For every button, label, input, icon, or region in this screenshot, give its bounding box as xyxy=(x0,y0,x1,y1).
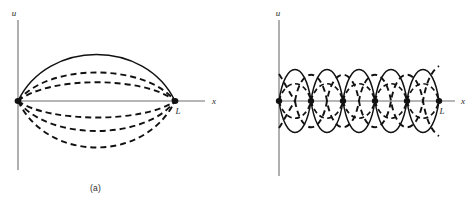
panel-a: u x L (a) xyxy=(0,0,237,206)
panel-a-x-axis-label: x xyxy=(211,96,216,106)
panel-b-node-3 xyxy=(372,98,378,104)
panel-b-node-2 xyxy=(340,98,346,104)
panel-b: u x L (b) xyxy=(237,0,474,206)
panel-a-curve-dashed-n1-neg036 xyxy=(18,101,175,118)
panel-b-x-axis-label: x xyxy=(460,96,465,106)
panel-b-endpoint-label: L xyxy=(438,106,444,116)
panel-a-node-endpoint xyxy=(172,98,179,104)
panel-a-curve-dashed-n1-neg064 xyxy=(18,101,175,131)
panel-a-endpoint-label: L xyxy=(174,106,180,116)
panel-a-curve-dashed-n1-pos040 xyxy=(18,82,175,101)
panel-b-plot: u x L xyxy=(237,0,474,206)
panel-a-y-axis-label: u xyxy=(12,8,17,18)
panel-b-node-1 xyxy=(308,98,314,104)
panel-b-y-axis-label: u xyxy=(276,8,281,18)
panel-a-curve-dashed-n1-pos061 xyxy=(18,73,175,102)
panel-b-node-0 xyxy=(276,98,282,104)
panel-a-node-origin xyxy=(15,98,22,104)
panel-a-curve-solid-n1-pos1 xyxy=(18,55,175,102)
figure-root: u x L (a) xyxy=(0,0,474,206)
panel-b-node-5 xyxy=(436,98,442,104)
panel-a-plot: u x L xyxy=(0,0,237,206)
panel-a-curve-dashed-n1-neg100 xyxy=(18,101,175,148)
panel-a-caption: (a) xyxy=(90,183,101,193)
panel-b-node-4 xyxy=(404,98,410,104)
